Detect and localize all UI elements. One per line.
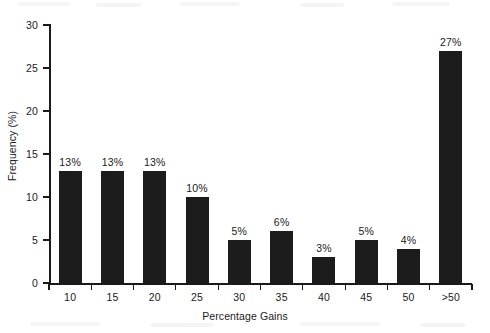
y-axis-tick [43,239,50,240]
bar-value-label: 13% [90,157,134,168]
y-axis-tick [43,67,50,68]
bar [59,171,82,283]
page-bleed-artifact [30,322,100,326]
y-axis-title: Frequency (%) [6,86,18,206]
page-bleed-artifact [180,2,240,6]
x-axis-tick-label: 20 [133,292,177,303]
bar-value-label: 6% [260,217,304,228]
bar [270,231,293,283]
bar [439,51,462,283]
page-bleed-artifact [96,3,142,7]
x-axis-tick [48,284,49,290]
x-axis-tick-label: >50 [429,292,473,303]
page-bleed-artifact [300,322,380,326]
x-axis-title: Percentage Gains [0,310,490,322]
y-axis-tick-label: 30 [0,20,38,31]
page-bleed-artifact [300,3,344,7]
y-axis-tick-label: 5 [0,235,38,246]
x-axis-tick [387,284,388,290]
x-axis-tick-label: 50 [387,292,431,303]
y-axis-tick [43,24,50,25]
x-axis-tick-label: 40 [302,292,346,303]
bar-value-label: 27% [429,37,473,48]
bar-value-label: 5% [217,226,261,237]
x-axis-tick [133,284,134,290]
page-bleed-artifact [18,2,70,6]
x-axis-tick-label: 10 [48,292,92,303]
y-axis-tick [43,196,50,197]
bar-value-label: 10% [175,183,219,194]
bar [101,171,124,283]
x-axis-tick-label: 45 [344,292,388,303]
bar [312,257,335,283]
bar-value-label: 4% [387,235,431,246]
bar-value-label: 3% [302,243,346,254]
bar-value-label: 5% [344,226,388,237]
bar-chart: 051015202530 101520253035404550>50 13%13… [0,0,490,333]
y-axis-tick-label: 0 [0,278,38,289]
x-axis-tick-label: 35 [260,292,304,303]
x-axis-tick-label: 15 [90,292,134,303]
page-bleed-artifact [150,323,214,327]
bar [186,197,209,283]
x-axis-tick [345,284,346,290]
bar [228,240,251,283]
y-axis-tick [43,110,50,111]
x-axis-tick [429,284,430,290]
y-axis-tick-label: 25 [0,63,38,74]
x-axis-tick [91,284,92,290]
x-axis-tick-label: 30 [217,292,261,303]
x-axis-tick [471,284,472,290]
bar [397,249,420,283]
bar [355,240,378,283]
page-bleed-artifact [392,2,450,6]
bar-value-label: 13% [48,157,92,168]
bar [143,171,166,283]
x-axis-tick [302,284,303,290]
x-axis-tick [260,284,261,290]
x-axis-tick-label: 25 [175,292,219,303]
bar-value-label: 13% [133,157,177,168]
x-axis-tick [218,284,219,290]
y-axis-tick [43,153,50,154]
x-axis-tick [175,284,176,290]
page-bleed-artifact [420,323,466,327]
